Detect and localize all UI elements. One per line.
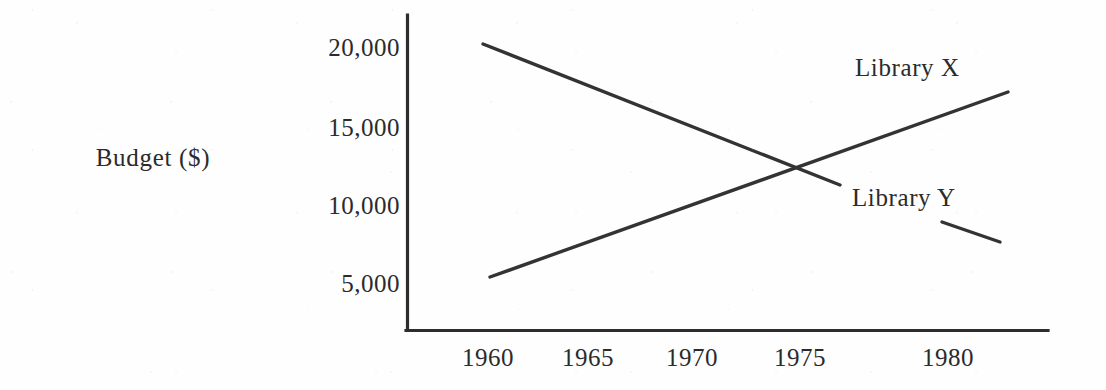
series-label-library-x: Library X	[855, 55, 960, 80]
x-tick-label-1975: 1975	[740, 345, 860, 370]
x-tick-label-1980: 1980	[888, 345, 1008, 370]
budget-line-chart: Budget ($) 20,000 15,000 10,000 5,000 19…	[0, 0, 1106, 390]
x-tick-label-1970: 1970	[632, 345, 752, 370]
series-label-library-y: Library Y	[852, 185, 956, 210]
x-tick-label-1965: 1965	[528, 345, 648, 370]
